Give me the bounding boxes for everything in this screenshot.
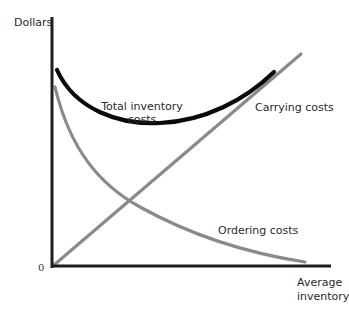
x-axis-label-line2: inventory: [297, 290, 349, 304]
y-axis-label: Dollars: [14, 16, 52, 29]
x-axis-label: Average inventory: [297, 276, 349, 304]
chart-canvas: [0, 0, 349, 311]
ordering-costs-label: Ordering costs: [218, 224, 298, 237]
carrying-costs-label: Carrying costs: [255, 101, 334, 114]
total-inventory-costs-label: Total inventory costs: [108, 100, 176, 126]
total-label-line1: Total inventory: [98, 100, 186, 113]
total-label-line2: costs: [108, 113, 176, 126]
x-axis-label-line1: Average: [297, 276, 349, 290]
origin-label: 0: [38, 261, 44, 274]
inventory-cost-chart: Dollars 0 Average inventory Total invent…: [0, 0, 349, 311]
